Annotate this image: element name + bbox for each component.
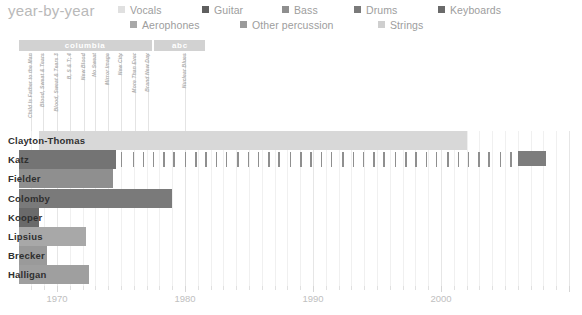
timeline-plot: Clayton-ThomasKatzFielderColombyKooperLi… [0, 131, 582, 286]
axis-tick [108, 286, 109, 290]
album-marker[interactable]: No Sweat [91, 53, 100, 131]
legend-swatch-guitar [202, 6, 209, 13]
album-marker[interactable]: Child Is Father to the Man [27, 53, 36, 131]
album-marker[interactable]: Blood, Sweat & Tears [39, 53, 48, 131]
member-name-label: Brecker [8, 246, 45, 265]
album-title: Brand New Day [144, 53, 150, 92]
axis-tick [467, 286, 468, 290]
table-row[interactable]: Kooper [0, 208, 582, 227]
table-row[interactable]: Clayton-Thomas [0, 131, 582, 150]
album-marker[interactable]: New Blood [80, 53, 89, 131]
axis-tick [454, 286, 455, 290]
legend-item-guitar[interactable]: Guitar [202, 2, 282, 17]
appearance-tick [436, 152, 437, 167]
axis-tick-label: 1990 [302, 293, 323, 304]
appearance-tick [468, 152, 469, 167]
legend-item-strings[interactable]: Strings [378, 17, 458, 32]
appearance-tick [278, 152, 279, 167]
album-markers: Child Is Father to the ManBlood, Sweat &… [0, 53, 582, 131]
axis-tick [300, 286, 301, 290]
legend-swatch-keyboards [438, 6, 445, 13]
album-title: New City [117, 53, 123, 75]
appearance-tick [310, 152, 311, 167]
appearance-tick [143, 152, 144, 167]
axis-tick [44, 286, 45, 290]
table-row[interactable]: Halligan [0, 265, 582, 284]
record-label-columbia[interactable]: columbia [19, 40, 152, 51]
axis-tick [236, 286, 237, 290]
table-row[interactable]: Lipsius [0, 227, 582, 246]
appearance-tick [121, 152, 122, 167]
appearance-tick [216, 152, 217, 167]
axis-tick [390, 286, 391, 290]
album-title: Nuclear Blues [181, 53, 187, 88]
appearance-tick [458, 152, 459, 167]
axis-tick [121, 286, 122, 290]
axis-tick [249, 286, 250, 290]
record-label-abc[interactable]: abc [154, 40, 205, 51]
legend-label: Strings [390, 18, 423, 33]
legend-item-keyboards[interactable]: Keyboards [438, 2, 528, 17]
table-row[interactable]: Brecker [0, 246, 582, 265]
member-name-label: Kooper [8, 208, 42, 227]
album-marker[interactable]: Nuclear Blues [181, 53, 190, 131]
axis-tick-label: 1970 [46, 293, 67, 304]
legend-item-other-percussion[interactable]: Other percussion [240, 17, 378, 32]
appearance-tick [321, 152, 322, 167]
member-bar-clayton-thomas[interactable] [39, 131, 467, 150]
appearance-tick [342, 152, 343, 167]
album-marker[interactable]: Brand New Day [144, 53, 153, 131]
table-row[interactable]: Katz [0, 150, 582, 169]
appearance-tick [290, 152, 291, 167]
legend-label: Aerophones [142, 18, 200, 33]
member-name-label: Halligan [8, 265, 47, 284]
member-name-label: Colomby [8, 189, 50, 208]
member-bar-katz[interactable] [19, 150, 116, 169]
record-label-band: columbiaabc [0, 40, 582, 52]
table-row[interactable]: Colomby [0, 189, 582, 208]
album-marker[interactable]: New City [117, 53, 126, 131]
axis-tick [556, 286, 557, 290]
axis-tick [518, 286, 519, 290]
legend-item-drums[interactable]: Drums [354, 2, 438, 17]
album-title: Blood, Sweat & Tears 3 [53, 53, 59, 111]
appearance-tick [363, 152, 364, 167]
reunion-block[interactable] [518, 151, 546, 166]
axis-tick [211, 286, 212, 290]
album-marker[interactable]: More Than Ever [131, 53, 140, 131]
appearance-tick [300, 152, 301, 167]
album-marker[interactable]: B, S & T; 4 [66, 53, 75, 131]
album-marker[interactable]: Mirror Image [104, 53, 113, 131]
legend-item-aerophones[interactable]: Aerophones [130, 17, 240, 32]
appearance-tick [426, 152, 427, 167]
appearance-tick [173, 152, 174, 167]
album-title: Mirror Image [104, 53, 110, 85]
appearance-tick [268, 152, 269, 167]
album-title: B, S & T; 4 [66, 53, 72, 79]
axis-tick [198, 286, 199, 290]
album-marker[interactable]: Blood, Sweat & Tears 3 [53, 53, 62, 131]
axis-tick [147, 286, 148, 290]
appearance-tick [195, 152, 196, 167]
axis-tick [351, 286, 352, 290]
legend-swatch-aerophones [130, 21, 137, 28]
album-title: No Sweat [91, 53, 97, 77]
legend-item-bass[interactable]: Bass [282, 2, 354, 17]
axis-tick [479, 286, 480, 290]
axis-tick [531, 286, 532, 290]
axis-tick [403, 286, 404, 290]
appearance-tick [500, 152, 501, 167]
legend-item-vocals[interactable]: Vocals [118, 2, 202, 17]
member-name-label: Katz [8, 150, 29, 169]
axis-tick [313, 286, 314, 292]
axis-tick [505, 286, 506, 290]
appearance-tick [237, 152, 238, 167]
axis-tick-label: 2000 [430, 293, 451, 304]
axis-tick [275, 286, 276, 290]
legend-swatch-strings [378, 21, 385, 28]
appearance-tick [373, 152, 374, 167]
appearance-tick [153, 152, 154, 167]
table-row[interactable]: Fielder [0, 169, 582, 188]
legend-row: AerophonesOther percussionStrings [118, 17, 578, 32]
axis-tick [185, 286, 186, 292]
